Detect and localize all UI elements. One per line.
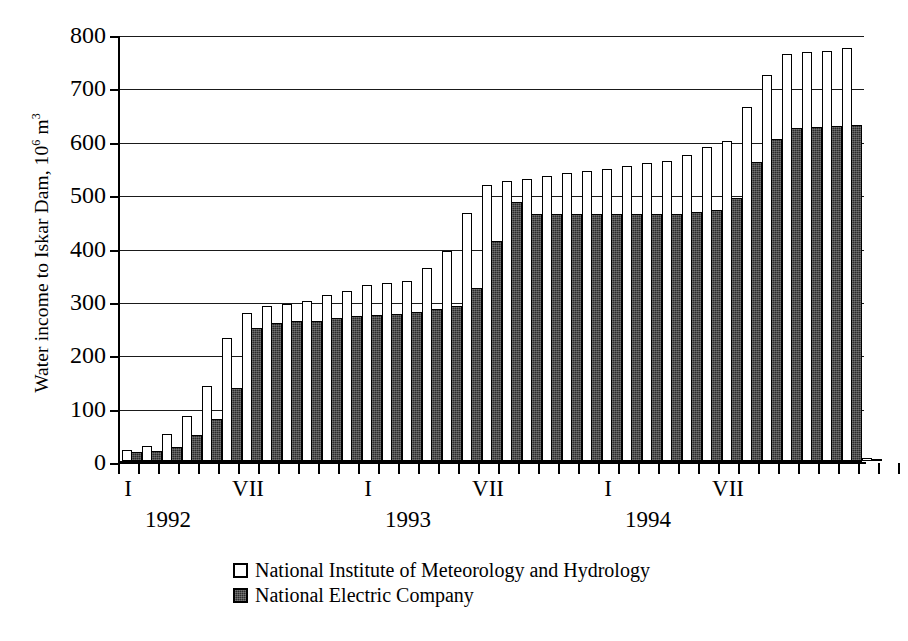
y-axis-tick-label: 600: [34, 130, 106, 154]
x-axis-tick-mark: [218, 463, 220, 474]
bar-national-electric-company: [191, 435, 202, 461]
month-bar-group: [302, 34, 322, 461]
month-bar-group: [622, 34, 642, 461]
month-bar-group: [242, 34, 262, 461]
y-axis-tick-label: 200: [34, 343, 106, 367]
month-bar-group: [182, 34, 202, 461]
month-bar-group: [362, 34, 382, 461]
month-bar-group: [422, 34, 442, 461]
bar-national-electric-company: [651, 214, 662, 461]
bar-national-institute-meteorology-hydrology: [302, 301, 312, 461]
x-axis-tick-mark: [698, 463, 700, 474]
month-bar-group: [402, 34, 422, 461]
month-bar-group: [482, 34, 502, 461]
bar-national-electric-company: [591, 214, 602, 461]
month-bar-group: [542, 34, 562, 461]
bar-national-electric-company: [531, 214, 542, 461]
x-axis-tick-mark: [198, 463, 200, 474]
bar-national-institute-meteorology-hydrology: [142, 446, 152, 461]
bar-national-institute-meteorology-hydrology: [762, 75, 772, 461]
bar-national-institute-meteorology-hydrology: [502, 181, 512, 461]
x-axis-tick-mark: [418, 463, 420, 474]
bar-national-electric-company: [551, 214, 562, 461]
x-axis-tick-mark: [638, 463, 640, 474]
x-axis-month-label: I: [98, 477, 158, 500]
x-axis-year-label: 1993: [363, 508, 453, 531]
bar-national-electric-company: [511, 202, 522, 461]
x-axis-month-label: VII: [218, 477, 278, 500]
legend-label-nec: National Electric Company: [255, 583, 474, 608]
x-axis-tick-mark: [298, 463, 300, 474]
bar-national-electric-company: [611, 214, 622, 461]
month-bar-group: [702, 34, 722, 461]
bar-national-institute-meteorology-hydrology: [602, 169, 612, 461]
bar-national-institute-meteorology-hydrology: [222, 338, 232, 461]
bar-national-electric-company: [371, 315, 382, 461]
bar-national-institute-meteorology-hydrology: [842, 48, 852, 461]
bar-national-institute-meteorology-hydrology: [482, 185, 492, 461]
bar-national-electric-company: [311, 321, 322, 461]
bar-national-electric-company: [331, 318, 342, 461]
month-bar-group: [582, 34, 602, 461]
bar-national-electric-company: [271, 323, 282, 461]
bar-national-electric-company: [411, 312, 422, 461]
month-bar-group: [262, 34, 282, 461]
x-axis-tick-mark: [858, 463, 860, 474]
bar-national-institute-meteorology-hydrology: [642, 163, 652, 461]
month-bar-group: [722, 34, 742, 461]
bar-national-electric-company: [251, 328, 262, 461]
bar-national-electric-company: [471, 288, 482, 461]
x-axis-tick-mark: [898, 463, 900, 474]
x-axis-tick-mark: [538, 463, 540, 474]
bar-national-electric-company: [351, 316, 362, 461]
bar-national-institute-meteorology-hydrology: [682, 155, 692, 461]
bar-national-institute-meteorology-hydrology: [782, 54, 792, 461]
month-bar-group: [222, 34, 242, 461]
bar-national-electric-company: [571, 214, 582, 461]
x-axis-month-label: VII: [458, 477, 518, 500]
bar-national-electric-company: [451, 306, 462, 461]
bar-national-institute-meteorology-hydrology: [282, 304, 292, 461]
bar-national-electric-company: [171, 447, 182, 461]
bar-national-electric-company: [291, 321, 302, 461]
x-axis-tick-mark: [558, 463, 560, 474]
month-bar-group: [142, 34, 162, 461]
month-bar-group: [462, 34, 482, 461]
x-axis-ticks: [118, 463, 866, 475]
bar-national-institute-meteorology-hydrology: [322, 295, 332, 461]
month-bar-group: [802, 34, 822, 461]
month-bar-group: [122, 34, 142, 461]
legend-swatch-white-square: [233, 563, 248, 578]
bar-national-institute-meteorology-hydrology: [202, 386, 212, 461]
bar-national-electric-company: [491, 241, 502, 461]
y-axis-tick-label: 0: [34, 450, 106, 474]
y-axis-tick-label: 400: [34, 237, 106, 261]
x-axis-tick-mark: [578, 463, 580, 474]
bar-national-institute-meteorology-hydrology: [722, 141, 732, 461]
bar-national-electric-company: [431, 309, 442, 461]
bar-national-institute-meteorology-hydrology: [422, 268, 432, 461]
month-bar-group: [762, 34, 782, 461]
legend-swatch-dark-square: [233, 588, 248, 603]
month-bar-group: [162, 34, 182, 461]
legend-entry-nec: National Electric Company: [233, 583, 650, 608]
x-axis-tick-mark: [598, 463, 600, 474]
month-bar-group: [522, 34, 542, 461]
month-bar-group: [282, 34, 302, 461]
y-axis-tick-label: 100: [34, 397, 106, 421]
bar-national-institute-meteorology-hydrology: [122, 450, 132, 461]
x-axis-tick-mark: [798, 463, 800, 474]
legend-entry-nimh: National Institute of Meteorology and Hy…: [233, 558, 650, 583]
month-bar-group: [682, 34, 702, 461]
x-axis-tick-mark: [338, 463, 340, 474]
x-axis-tick-mark: [458, 463, 460, 474]
plot-area: [118, 36, 862, 463]
month-bar-group: [742, 34, 762, 461]
bar-national-electric-company: [711, 210, 722, 461]
bar-national-electric-company: [131, 452, 142, 461]
x-axis-month-label: I: [338, 477, 398, 500]
bar-national-institute-meteorology-hydrology: [662, 161, 672, 461]
x-axis-tick-mark: [498, 463, 500, 474]
x-axis-tick-mark: [478, 463, 480, 474]
x-axis-tick-mark: [138, 463, 140, 474]
